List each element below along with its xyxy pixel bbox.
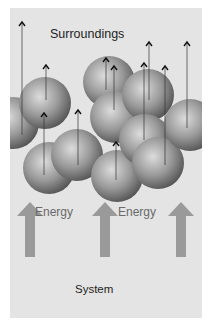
energy-label-right: Energy — [118, 205, 156, 219]
surroundings-label: Surroundings — [50, 27, 124, 41]
molecule-sphere — [122, 69, 174, 121]
system-label: System — [75, 283, 113, 295]
molecule-diagram — [0, 0, 212, 331]
energy-arrow-icon — [92, 202, 118, 257]
energy-label-left: Energy — [35, 205, 73, 219]
energy-arrow-icon — [168, 202, 194, 257]
molecule-sphere — [19, 77, 71, 129]
